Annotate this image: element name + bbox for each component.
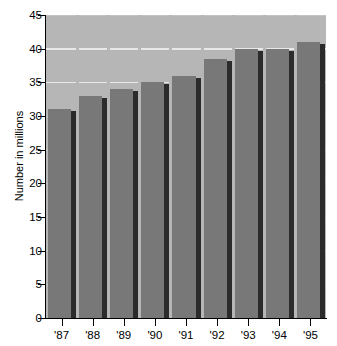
x-tick-mark [186,319,187,326]
x-tick-mark [279,319,280,326]
x-tick-mark [155,319,156,326]
x-tick-mark [310,319,311,326]
x-tick-mark [62,319,63,326]
x-tick-mark [124,319,125,326]
x-axis: '87'88'89'90'91'92'93'94'95 [0,0,337,346]
x-tick-mark [93,319,94,326]
bar-chart: Number in millions 051015202530354045 '8… [0,0,337,346]
x-tick-mark [248,319,249,326]
x-tick-label: '95 [290,329,330,341]
x-tick-mark [217,319,218,326]
